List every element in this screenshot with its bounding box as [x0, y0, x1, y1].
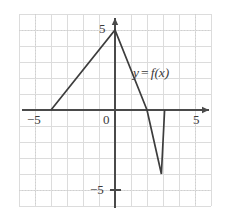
function-curve [51, 30, 165, 174]
curve-annotation: y=f(x) [133, 66, 169, 80]
x-tick-label-5: 5 [193, 113, 200, 126]
coordinate-plane [0, 0, 226, 220]
x-tick-label-neg5: −5 [27, 113, 41, 126]
curve-label-equals: = [139, 65, 151, 80]
curve-label-fx: f(x) [151, 65, 170, 80]
y-tick-label-neg5: −5 [90, 183, 104, 196]
origin-label: 0 [103, 113, 110, 126]
y-tick-label-5: 5 [99, 22, 106, 35]
graph-figure: 5 −5 −5 5 0 y=f(x) [0, 0, 226, 220]
